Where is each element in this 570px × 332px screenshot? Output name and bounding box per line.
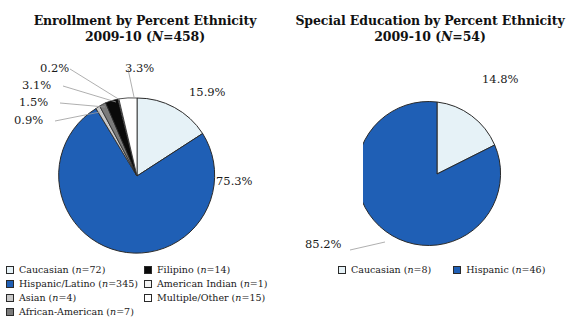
- legend-label-filipino: Filipino (n=14): [157, 264, 230, 276]
- pct-label-american-indian: 0.2%: [40, 61, 69, 75]
- legend-swatch-hispanic-sped: [453, 266, 461, 274]
- pct-label-hispanic-latino: 75.3%: [216, 174, 253, 188]
- legend-item-asian[interactable]: Asian (n=4): [6, 291, 138, 305]
- pct-label-multiple-other: 3.3%: [125, 61, 154, 75]
- legend-label-caucasian-sped: Caucasian (n=8): [351, 264, 431, 276]
- enrollment-subtitle-suffix: =458): [163, 29, 205, 44]
- enrollment-legend: Caucasian (n=72) Hispanic/Latino (n=345)…: [6, 263, 290, 323]
- pct-label-filipino: 3.1%: [22, 78, 51, 92]
- legend-item-multiple-other[interactable]: Multiple/Other (n=15): [144, 291, 268, 305]
- legend-swatch-multiple-other: [144, 294, 152, 302]
- legend-label-caucasian: Caucasian (n=72): [19, 264, 105, 276]
- pct-label-caucasian-sped: 14.8%: [482, 72, 519, 86]
- leader-line-african-american: [60, 103, 105, 107]
- legend-swatch-hispanic-latino: [6, 280, 14, 288]
- legend-label-hispanic-sped: Hispanic (n=46): [466, 264, 545, 276]
- enrollment-chart-title: Enrollment by Percent Ethnicity 2009-10 …: [0, 13, 290, 45]
- legend-label-hispanic-latino: Hispanic/Latino (n=345): [19, 278, 138, 290]
- legend-item-hispanic-latino[interactable]: Hispanic/Latino (n=345): [6, 277, 138, 291]
- legend-item-hispanic-sped[interactable]: Hispanic (n=46): [453, 263, 545, 277]
- leader-line-asian: [55, 112, 100, 121]
- special-education-subtitle-n: N: [441, 29, 452, 44]
- pct-label-african-american: 1.5%: [19, 95, 48, 109]
- legend-item-filipino[interactable]: Filipino (n=14): [144, 263, 268, 277]
- legend-swatch-asian: [6, 294, 14, 302]
- leader-line-hispanic-sped: [350, 242, 385, 250]
- enrollment-subtitle-n: N: [152, 29, 163, 44]
- legend-label-multiple-other: Multiple/Other (n=15): [157, 292, 265, 304]
- enrollment-subtitle-prefix: 2009-10 (: [85, 29, 152, 44]
- legend-label-african-american: African-American (n=7): [19, 306, 134, 318]
- legend-label-american-indian: American Indian (n=1): [157, 278, 268, 290]
- legend-swatch-african-american: [6, 308, 14, 316]
- legend-item-caucasian[interactable]: Caucasian (n=72): [6, 263, 138, 277]
- pct-label-hispanic-sped: 85.2%: [305, 237, 342, 251]
- enrollment-legend-column-2: Filipino (n=14) American Indian (n=1) Mu…: [144, 263, 268, 305]
- special-education-title-line1: Special Education by Percent Ethnicity: [295, 13, 564, 28]
- ethnicity-pie-charts-figure: Enrollment by Percent Ethnicity 2009-10 …: [0, 0, 570, 332]
- special-education-legend: Caucasian (n=8) Hispanic (n=46): [338, 263, 568, 277]
- legend-swatch-caucasian: [6, 266, 14, 274]
- enrollment-chart-panel: Enrollment by Percent Ethnicity 2009-10 …: [0, 0, 290, 332]
- legend-swatch-filipino: [144, 266, 152, 274]
- special-education-title-line2: 2009-10 (N=54): [290, 29, 570, 45]
- special-education-subtitle-prefix: 2009-10 (: [374, 29, 441, 44]
- legend-item-american-indian[interactable]: American Indian (n=1): [144, 277, 268, 291]
- legend-item-african-american[interactable]: African-American (n=7): [6, 305, 138, 319]
- legend-item-caucasian-sped[interactable]: Caucasian (n=8): [338, 263, 431, 277]
- special-education-subtitle-suffix: =54): [452, 29, 485, 44]
- pct-label-asian: 0.9%: [14, 113, 43, 127]
- legend-swatch-american-indian: [144, 280, 152, 288]
- enrollment-title-line2: 2009-10 (N=458): [0, 29, 290, 45]
- pct-label-caucasian: 15.9%: [189, 85, 226, 99]
- special-education-chart-title: Special Education by Percent Ethnicity 2…: [290, 13, 570, 45]
- leader-line-filipino: [63, 86, 116, 102]
- special-education-chart-panel: Special Education by Percent Ethnicity 2…: [290, 0, 570, 332]
- legend-label-asian: Asian (n=4): [19, 292, 76, 304]
- enrollment-title-line1: Enrollment by Percent Ethnicity: [34, 13, 257, 28]
- special-education-legend-row: Caucasian (n=8) Hispanic (n=46): [338, 263, 568, 277]
- legend-swatch-caucasian-sped: [338, 266, 346, 274]
- enrollment-legend-column-1: Caucasian (n=72) Hispanic/Latino (n=345)…: [6, 263, 138, 319]
